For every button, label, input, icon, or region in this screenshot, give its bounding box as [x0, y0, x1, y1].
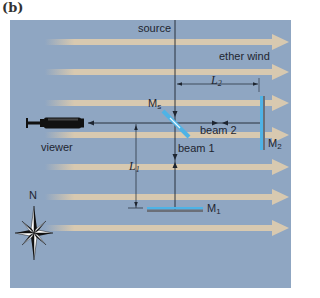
source-label: source: [138, 22, 171, 34]
ether-wind-label: ether wind: [219, 50, 270, 62]
m2-label: M2: [268, 137, 282, 151]
mirror-m2: [260, 96, 263, 150]
l1-label: L1: [129, 159, 140, 174]
l2-label: L2: [211, 73, 222, 88]
mirror-m1: [147, 207, 203, 210]
viewer-label: viewer: [41, 141, 73, 153]
compass-north-label: N: [29, 189, 37, 201]
m1-label: M1: [207, 202, 221, 216]
ms-label: Ms: [148, 97, 161, 111]
beam-1-label: beam 1: [178, 142, 215, 154]
beam-2-label: beam 2: [200, 124, 237, 136]
